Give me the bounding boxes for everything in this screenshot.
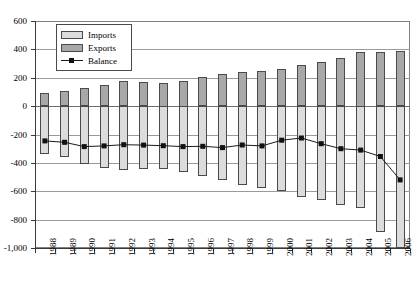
bar-exports-2002 — [317, 62, 326, 106]
x-axis-tick-label-2004: 2004 — [365, 238, 374, 256]
x-axis-tick-label-2006: 2006 — [404, 238, 413, 256]
balance-line-marker-icon — [61, 57, 83, 65]
legend-label-balance: Balance — [88, 56, 117, 66]
exports-swatch-icon — [61, 44, 83, 52]
y-axis-tick-label: -600 — [0, 187, 27, 196]
x-axis-tick-label-1999: 1999 — [266, 238, 275, 256]
bar-exports-1998 — [238, 72, 247, 106]
bar-exports-1994 — [159, 83, 168, 107]
x-axis-tick-label-1998: 1998 — [246, 238, 255, 256]
bar-exports-2001 — [297, 65, 306, 106]
bar-imports-2004 — [356, 106, 365, 208]
bar-imports-2001 — [297, 106, 306, 197]
x-axis-tick-label-1992: 1992 — [128, 238, 137, 256]
bar-exports-1999 — [257, 71, 266, 106]
bar-imports-1997 — [218, 106, 227, 180]
bar-imports-2005 — [376, 106, 385, 232]
legend-item-exports: Exports — [61, 41, 126, 54]
bar-imports-1993 — [139, 106, 148, 169]
bar-exports-1996 — [198, 77, 207, 106]
y-axis-tick-label: 200 — [0, 74, 27, 83]
bar-imports-1991 — [100, 106, 109, 168]
bar-imports-1996 — [198, 106, 207, 176]
bar-exports-2005 — [376, 52, 385, 106]
y-axis-line — [35, 21, 36, 249]
chart-legend: Imports Exports Balance — [56, 24, 132, 71]
bar-exports-2000 — [277, 69, 286, 106]
gridline--800 — [35, 220, 410, 221]
x-axis-tick-label-1994: 1994 — [167, 238, 176, 256]
x-axis-tick-label-1991: 1991 — [108, 238, 117, 256]
imports-swatch-icon — [61, 31, 83, 39]
x-axis-tick-label-1996: 1996 — [207, 238, 216, 256]
bar-exports-1990 — [80, 88, 89, 106]
bar-imports-1989 — [60, 106, 69, 157]
legend-item-imports: Imports — [61, 28, 126, 41]
y-axis-tick-label: -1,000 — [0, 244, 27, 253]
y-axis-tick-label: -200 — [0, 131, 27, 140]
bar-exports-1988 — [40, 93, 49, 106]
legend-label-imports: Imports — [88, 30, 116, 40]
bar-imports-1990 — [80, 106, 89, 164]
x-axis-tick-label-1995: 1995 — [187, 238, 196, 256]
bar-exports-1993 — [139, 82, 148, 106]
x-axis-tick-label-2001: 2001 — [305, 238, 314, 256]
x-axis-tick-label-1990: 1990 — [88, 238, 97, 256]
bar-exports-2004 — [356, 52, 365, 107]
bar-exports-2006 — [396, 51, 405, 106]
y-axis-tick-label: 0 — [0, 102, 27, 111]
y-axis-tick-label: -400 — [0, 159, 27, 168]
bar-imports-1992 — [119, 106, 128, 170]
bar-imports-1994 — [159, 106, 168, 169]
x-axis-tick-label-1993: 1993 — [148, 238, 157, 256]
bar-imports-1988 — [40, 106, 49, 154]
bar-exports-1989 — [60, 91, 69, 106]
bar-imports-2000 — [277, 106, 286, 191]
x-axis-tick-label-2000: 2000 — [286, 238, 295, 256]
bar-exports-1995 — [179, 81, 188, 107]
bar-imports-2002 — [317, 106, 326, 200]
x-axis-tick-label-1997: 1997 — [227, 238, 236, 256]
y-axis-tick-label: 600 — [0, 17, 27, 26]
bar-exports-1997 — [218, 74, 227, 106]
trade-balance-chart: 6004002000-200-400-600-800-1,000 1988198… — [0, 0, 419, 286]
gridline--600 — [35, 191, 410, 192]
bar-exports-1991 — [100, 85, 109, 106]
x-axis-tick-label-2002: 2002 — [325, 238, 334, 256]
bar-imports-1995 — [179, 106, 188, 172]
x-tick-mark — [35, 249, 36, 253]
bar-imports-1998 — [238, 106, 247, 185]
x-axis-tick-label-1988: 1988 — [49, 238, 58, 256]
y-axis-tick-label: -800 — [0, 216, 27, 225]
bar-exports-2003 — [336, 58, 345, 106]
x-axis-tick-label-1989: 1989 — [69, 238, 78, 256]
bar-imports-1999 — [257, 106, 266, 188]
y-axis-tick-label: 400 — [0, 45, 27, 54]
x-axis-tick-label-2005: 2005 — [384, 238, 393, 256]
bar-imports-2006 — [396, 106, 405, 248]
x-axis-tick-label-2003: 2003 — [345, 238, 354, 256]
legend-label-exports: Exports — [88, 43, 116, 53]
bar-imports-2003 — [336, 106, 345, 205]
bar-exports-1992 — [119, 81, 128, 106]
legend-item-balance: Balance — [61, 54, 126, 67]
